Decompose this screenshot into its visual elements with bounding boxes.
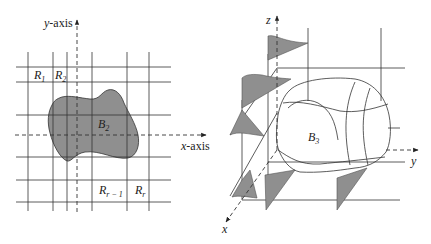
region-b2-blob xyxy=(48,90,138,161)
left-figure: y-axis x-axis R1 R2 B2 Rr − 1 Rr xyxy=(15,16,210,212)
figure-canvas: y-axis x-axis R1 R2 B2 Rr − 1 Rr xyxy=(0,0,431,244)
region-label-b3: B3 xyxy=(308,130,319,146)
body-b3 xyxy=(276,78,390,172)
y-axis-label: y-axis xyxy=(43,16,73,30)
z-axis-label: z xyxy=(265,13,271,27)
region-label-r-r: Rr xyxy=(134,183,146,199)
region-label-r-r-minus-1: Rr − 1 xyxy=(98,183,123,199)
frame-lines xyxy=(230,28,405,200)
y-axis-label-3d: y xyxy=(410,154,417,168)
region-label-r2: R2 xyxy=(54,68,66,84)
floor-triangles xyxy=(265,168,367,210)
right-figure: z y x B3 xyxy=(221,13,418,236)
x-axis-label: x-axis xyxy=(180,139,210,153)
region-label-r1: R1 xyxy=(33,68,45,84)
x-axis-label-3d: x xyxy=(221,222,228,236)
